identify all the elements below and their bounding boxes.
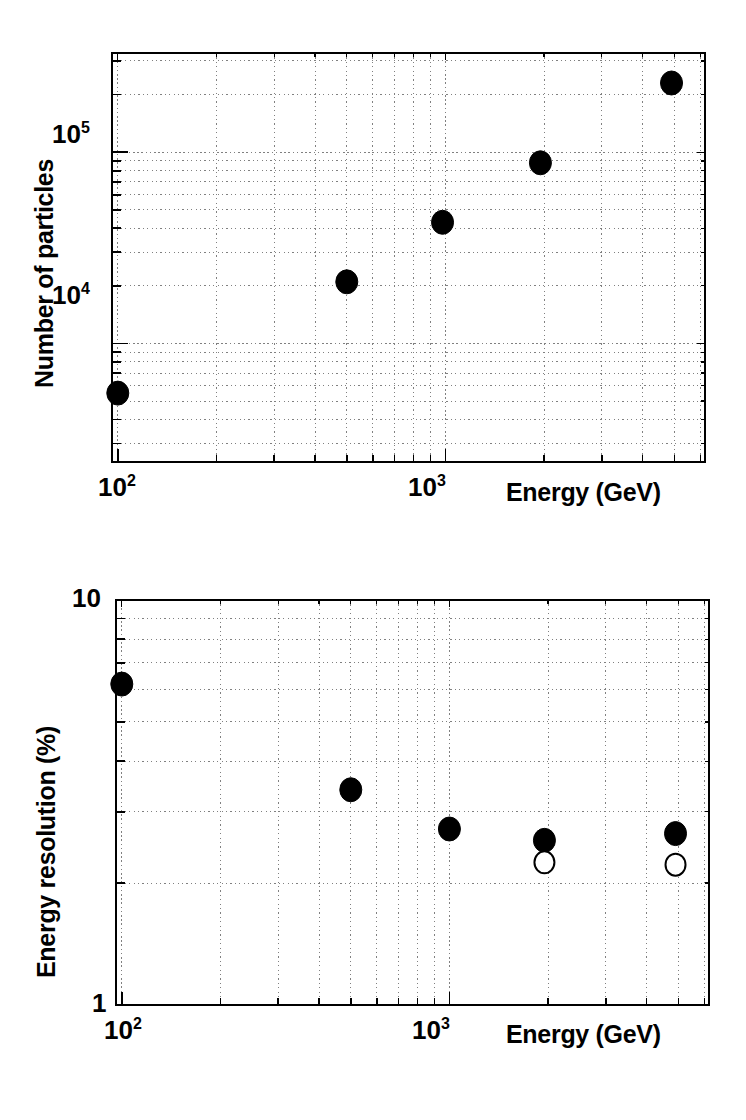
data-point-filled (438, 817, 460, 841)
data-point-filled (432, 210, 454, 234)
x-tick-label-100-bottom: 102 (104, 1015, 142, 1046)
data-point-filled (533, 828, 555, 852)
y-tick-label-1-bottom: 1 (92, 988, 106, 1019)
x-tick-label-1000-top: 103 (408, 472, 446, 503)
y-axis-title-top: Number of particles (30, 159, 59, 388)
x-tick-label-1000-bottom: 103 (412, 1015, 450, 1046)
chart-panel-number-of-particles: Number of particles Energy (GeV) 102 103… (0, 0, 746, 540)
y-tick-label-10-bottom: 10 (72, 583, 101, 614)
y-tick-label-1e4-top: 104 (52, 280, 90, 311)
data-point-open (666, 854, 686, 876)
figure-root: Number of particles Energy (GeV) 102 103… (0, 0, 746, 1120)
y-axis-title-bottom: Energy resolution (%) (32, 726, 61, 978)
data-point-filled (665, 822, 687, 846)
y-tick-label-1e5-top: 105 (52, 119, 90, 150)
plot-area-number-of-particles (0, 0, 746, 540)
data-point-filled (661, 71, 683, 95)
data-point-open (534, 851, 554, 873)
data-point-filled (336, 270, 358, 294)
data-point-filled (111, 672, 133, 696)
x-tick-label-100-top: 102 (98, 472, 136, 503)
data-point-filled (340, 778, 362, 802)
x-axis-title-top: Energy (GeV) (506, 478, 661, 507)
series-1 (534, 851, 685, 875)
chart-panel-energy-resolution: Energy resolution (%) Energy (GeV) 102 1… (0, 560, 746, 1120)
data-point-filled (107, 381, 129, 405)
x-axis-title-bottom: Energy (GeV) (506, 1020, 661, 1049)
data-point-filled (529, 151, 551, 175)
